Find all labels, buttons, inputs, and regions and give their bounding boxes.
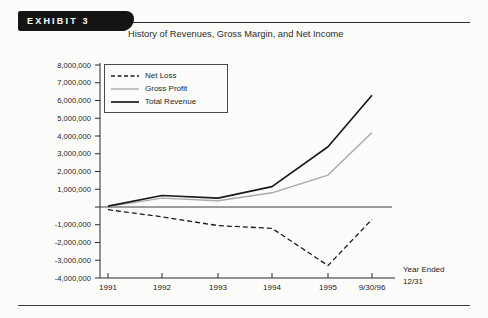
y-axis-label: 8,000,000 xyxy=(57,61,91,70)
y-axis-label: -2,000,000 xyxy=(55,238,91,247)
chart-legend: Net LossGross ProfitTotal Revenue xyxy=(104,64,228,113)
y-axis-label: 4,000,000 xyxy=(57,132,91,141)
legend-label-gross-profit: Gross Profit xyxy=(145,84,187,93)
y-axis-label: -3,000,000 xyxy=(55,256,91,265)
x-axis-label: 1991 xyxy=(99,283,117,292)
exhibit-page: EXHIBIT 3 History of Revenues, Gross Mar… xyxy=(0,0,488,318)
x-axis-note-line: 12/31 xyxy=(403,277,424,286)
y-axis-label: 5,000,000 xyxy=(57,114,91,123)
exhibit-label: EXHIBIT 3 xyxy=(27,16,90,26)
legend-line-sample-total-revenue xyxy=(111,98,139,106)
series-line-gross-profit xyxy=(108,132,372,206)
legend-line-sample-gross-profit xyxy=(111,85,139,93)
x-axis-label: 1993 xyxy=(209,283,227,292)
y-axis-label: 2,000,000 xyxy=(57,167,91,176)
exhibit-tab: EXHIBIT 3 xyxy=(18,11,134,31)
chart-svg: 8,000,0007,000,0006,000,0005,000,0004,00… xyxy=(0,0,488,318)
bottom-rule xyxy=(18,305,470,306)
legend-label-total-revenue: Total Revenue xyxy=(145,97,196,106)
y-axis-label: -4,000,000 xyxy=(55,274,91,283)
x-axis-note-line: Year Ended xyxy=(403,265,445,274)
legend-item-gross-profit: Gross Profit xyxy=(111,82,221,95)
y-axis-label: -1,000,000 xyxy=(55,220,91,229)
x-axis-label: 1995 xyxy=(319,283,337,292)
x-axis-label: 1992 xyxy=(153,283,171,292)
legend-item-net-loss: Net Loss xyxy=(111,69,221,82)
chart-title: History of Revenues, Gross Margin, and N… xyxy=(128,29,343,39)
y-axis-label: 6,000,000 xyxy=(57,96,91,105)
series-line-net-loss xyxy=(108,210,372,266)
y-axis-label: 7,000,000 xyxy=(57,78,91,87)
x-axis-label: 1994 xyxy=(263,283,281,292)
y-axis-label: 1,000,000 xyxy=(57,185,91,194)
legend-label-net-loss: Net Loss xyxy=(145,71,177,80)
legend-line-sample-net-loss xyxy=(111,72,139,80)
legend-item-total-revenue: Total Revenue xyxy=(111,95,221,108)
y-axis-label: 3,000,000 xyxy=(57,149,91,158)
x-axis-label: 9/30/96 xyxy=(359,283,386,292)
